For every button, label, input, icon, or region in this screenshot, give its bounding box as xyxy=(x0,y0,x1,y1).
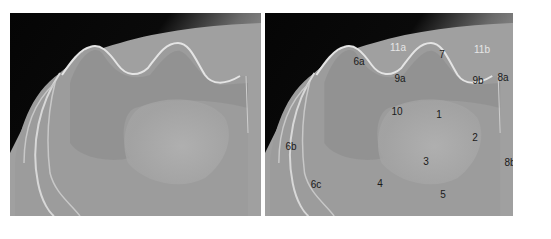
anatomical-label: 6b xyxy=(285,142,296,152)
figure-caption xyxy=(10,228,530,239)
anatomical-label: 9b xyxy=(472,76,483,86)
anatomical-label: 1 xyxy=(436,110,442,120)
anatomical-label: 8b xyxy=(504,158,513,168)
anatomical-label: 9a xyxy=(394,74,405,84)
radiograph-panel-unlabeled xyxy=(10,13,261,216)
radiograph-panel-labeled: 11a711b6a9a9b8a10126b38b6c45 xyxy=(265,13,513,216)
anatomical-label: 10 xyxy=(391,107,402,117)
anatomical-label: 4 xyxy=(377,179,383,189)
anatomical-label: 5 xyxy=(440,190,446,200)
anatomical-label: 8a xyxy=(497,73,508,83)
anatomical-label: 6c xyxy=(311,180,322,190)
anatomical-label: 11b xyxy=(474,45,490,55)
anatomical-label: 2 xyxy=(472,133,478,143)
anatomical-label: 6a xyxy=(353,57,364,67)
anatomical-label: 11a xyxy=(390,43,406,53)
anatomical-label: 3 xyxy=(423,157,429,167)
anatomical-label: 7 xyxy=(439,50,445,60)
radiograph-image xyxy=(10,13,261,216)
